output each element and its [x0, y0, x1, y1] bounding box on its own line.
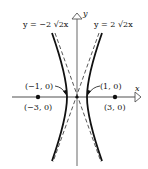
focus-point-left [36, 95, 40, 99]
origin-point [75, 95, 78, 98]
vertex-label-left: (−1, 0) [25, 82, 53, 91]
vertex-label-right: (1, 0) [100, 82, 122, 91]
focus-label-right: (3, 0) [104, 103, 126, 112]
y-axis-label: y [82, 9, 88, 18]
vertex-right-pointer [89, 86, 100, 93]
vertex-left-pointer [55, 86, 65, 93]
focus-label-left: (−3, 0) [24, 103, 52, 112]
y-axis-arrow-icon [72, 13, 82, 19]
asymptote-label-right: y = 2 √2x [93, 20, 133, 29]
focus-point-right [113, 95, 117, 99]
hyperbola-diagram: y = −2 √2x y = 2 √2x y x (−1, 0) (1, 0) … [0, 0, 148, 169]
asymptote-label-left: y = −2 √2x [22, 20, 69, 29]
x-axis-arrow-icon [135, 92, 141, 102]
x-axis-label: x [135, 84, 140, 93]
